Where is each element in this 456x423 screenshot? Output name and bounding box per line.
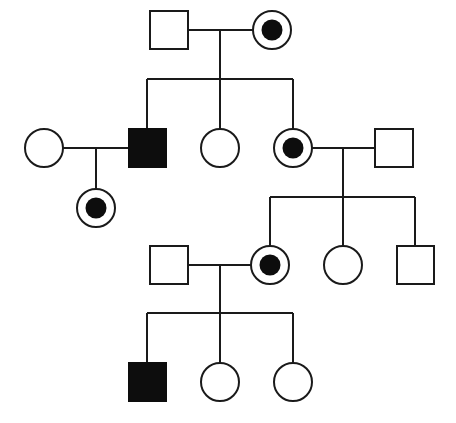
female-carrier-I-2	[253, 11, 291, 49]
female-unaffected-II-1	[25, 129, 63, 167]
female-unaffected-II-3	[201, 129, 239, 167]
male-unaffected-III-5	[397, 246, 434, 284]
female-carrier-II-4	[274, 129, 312, 167]
male-unaffected-II-5	[375, 129, 413, 167]
male-affected-II-2	[129, 129, 166, 167]
female-unaffected-IV-2	[201, 363, 239, 401]
male-unaffected-I-1	[150, 11, 188, 49]
female-unaffected-III-4	[324, 246, 362, 284]
relationship-lines	[63, 30, 415, 363]
female-carrier-III-1	[77, 189, 115, 227]
male-unaffected-III-2	[150, 246, 188, 284]
male-affected-IV-1	[129, 363, 166, 401]
female-carrier-III-3	[251, 246, 289, 284]
female-unaffected-IV-3	[274, 363, 312, 401]
pedigree-chart	[0, 0, 456, 423]
pedigree-svg	[0, 0, 456, 423]
